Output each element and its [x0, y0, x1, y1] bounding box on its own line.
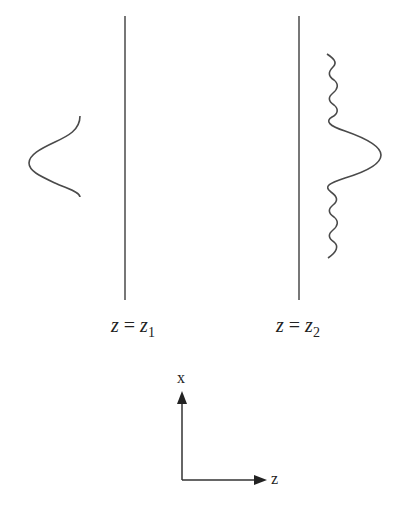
label-sub: 2: [313, 325, 320, 340]
label-var: z: [111, 314, 119, 336]
label-eq: =: [124, 314, 135, 336]
x-axis-label: x: [177, 369, 185, 387]
label-var: z: [276, 314, 284, 336]
z-axis-label: z: [271, 470, 278, 488]
label-rhs: z: [140, 314, 148, 336]
plane-z1-label: z = z1: [111, 314, 155, 341]
z-axis-arrowhead-icon: [254, 475, 267, 485]
input-gaussian-pulse: [29, 116, 80, 197]
label-sub: 1: [148, 325, 155, 340]
plane-z2-label: z = z2: [276, 314, 320, 341]
x-axis-arrowhead-icon: [177, 391, 187, 404]
diagram-canvas: [0, 0, 402, 509]
label-rhs: z: [305, 314, 313, 336]
output-pulse-with-ringing: [327, 54, 381, 258]
label-eq: =: [289, 314, 300, 336]
